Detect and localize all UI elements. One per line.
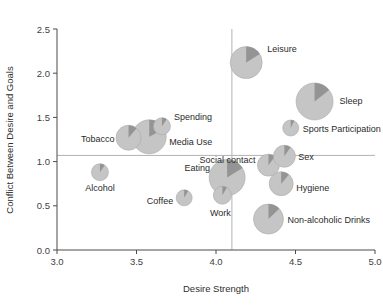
y-tick-label: 0.5 [37,200,50,211]
x-tick-label: 3.5 [130,256,143,267]
pie-marker-coffee[interactable] [176,190,192,206]
point-label-non-alcoholic-drinks: Non-alcoholic Drinks [287,215,370,225]
x-tick-label: 5.0 [368,256,381,267]
point-label-tobacco: Tobacco [81,134,115,144]
pie-marker-alcohol[interactable] [91,164,108,181]
point-label-hygiene: Hygiene [296,183,329,193]
point-label-leisure: Leisure [267,44,297,54]
pie-marker-sex[interactable] [273,145,295,167]
pie-marker-tobacco[interactable] [116,125,141,150]
plot-canvas: 3.03.54.04.55.00.00.51.01.52.02.5 Leisur… [0,0,383,305]
y-tick-label: 0.0 [37,245,50,256]
pie-marker-non-alcoholic-drinks[interactable] [253,204,283,234]
y-tick-label: 2.5 [37,24,50,35]
point-label-alcohol: Alcohol [85,183,115,193]
point-label-social-contact: Social contact [199,155,256,165]
x-tick-label: 3.0 [50,256,63,267]
y-tick-label: 1.0 [37,156,50,167]
pie-marker-sports-participation[interactable] [283,120,299,136]
pie-marker-leisure[interactable] [230,47,262,79]
point-label-sleep: Sleep [340,96,363,106]
point-label-work: Work [210,208,231,218]
point-label-sports-participation: Sports Participation [303,124,381,134]
bubble-scatter-chart: 3.03.54.04.55.00.00.51.01.52.02.5 Leisur… [0,0,383,305]
pie-marker-spending[interactable] [153,118,170,135]
pie-marker-sleep[interactable] [296,83,333,120]
x-tick-label: 4.5 [289,256,302,267]
x-tick-label: 4.0 [209,256,222,267]
y-tick-label: 1.5 [37,112,50,123]
x-axis-title: Desire Strength [183,283,249,294]
y-axis-title: Conflict Between Desire and Goals [4,66,15,214]
point-label-media-use: Media Use [169,137,212,147]
point-label-sex: Sex [298,152,314,162]
point-label-coffee: Coffee [147,196,173,206]
pie-marker-work[interactable] [213,186,231,204]
y-tick-label: 2.0 [37,68,50,79]
point-label-spending: Spending [174,112,212,122]
